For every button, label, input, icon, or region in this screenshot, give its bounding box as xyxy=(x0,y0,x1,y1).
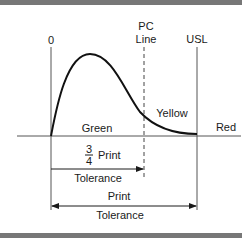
green-region-label: Green xyxy=(82,122,113,134)
yellow-region-label: Yellow xyxy=(156,107,187,119)
fraction-denominator: 4 xyxy=(86,155,92,167)
three-quarter-print-label: Print xyxy=(98,149,121,161)
pc-line-label-bottom: Line xyxy=(136,33,157,45)
fraction-numerator: 3 xyxy=(86,143,92,155)
bottom-border-bar xyxy=(0,233,242,238)
tolerance-diagram: 0 PC Line USL Green Yellow Red 3 4 Print… xyxy=(0,0,252,242)
three-quarter-tolerance-label: Tolerance xyxy=(74,172,122,184)
distribution-curve xyxy=(51,54,197,136)
red-region-label: Red xyxy=(216,121,236,133)
pc-line-label-top: PC xyxy=(138,20,153,32)
print-label: Print xyxy=(108,190,131,202)
usl-label: USL xyxy=(186,33,207,45)
zero-label: 0 xyxy=(48,34,54,46)
print-tolerance-label: Tolerance xyxy=(96,209,144,221)
